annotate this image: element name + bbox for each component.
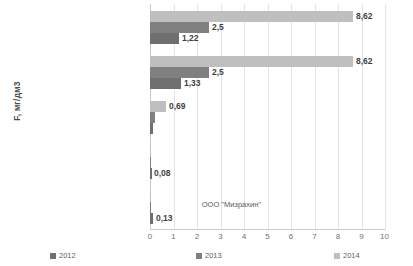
legend-swatch-icon-2013 bbox=[196, 253, 202, 259]
x-tick-6: 6 bbox=[289, 232, 293, 241]
legend-item-2012[interactable]: 2012 bbox=[50, 251, 76, 260]
bar-2014-group-5[interactable] bbox=[150, 191, 151, 202]
bar-2012-group-1[interactable] bbox=[150, 33, 179, 44]
bar-2013-group-5[interactable] bbox=[150, 202, 151, 213]
bar-2014-group-3[interactable] bbox=[150, 101, 166, 112]
bar-2013-group-3[interactable] bbox=[150, 112, 155, 123]
bar-2012-group-4[interactable] bbox=[150, 168, 152, 179]
plot-area: 8,62 2,5 1,22 8,62 2,5 1,33 0,69 bbox=[150, 4, 385, 230]
bar-2013-group-1[interactable] bbox=[150, 22, 209, 33]
bar-label-2014-group-2: 8,62 bbox=[356, 56, 373, 67]
bar-label-2012-group-2: 1,33 bbox=[184, 78, 201, 89]
bar-label-2014-group-3: 0,69 bbox=[169, 101, 186, 112]
legend-swatch-icon-2014 bbox=[334, 253, 340, 259]
bar-2014-group-2[interactable] bbox=[150, 56, 353, 67]
chart-legend: 2012 2013 2014 bbox=[0, 251, 413, 265]
legend-label-2012: 2012 bbox=[59, 251, 76, 260]
bar-label-2013-group-2: 2,5 bbox=[212, 67, 224, 78]
bar-chart: F, мг/дм3 8,62 2,5 1,22 8,62 2, bbox=[0, 0, 413, 266]
legend-item-2014[interactable]: 2014 bbox=[334, 251, 360, 260]
gridline-9 bbox=[362, 4, 363, 230]
y-axis-title: F, мг/дм3 bbox=[12, 46, 22, 156]
x-tick-2: 2 bbox=[195, 232, 199, 241]
gridline-4 bbox=[244, 4, 245, 230]
gridline-8 bbox=[338, 4, 339, 230]
gridline-6 bbox=[291, 4, 292, 230]
legend-label-2013: 2013 bbox=[205, 251, 222, 260]
category-axis-line bbox=[150, 229, 385, 230]
bar-2012-group-5[interactable] bbox=[150, 213, 153, 224]
bar-label-2012-group-1: 1,22 bbox=[182, 33, 199, 44]
bar-2014-group-4[interactable] bbox=[150, 146, 151, 157]
x-tick-8: 8 bbox=[336, 232, 340, 241]
gridline-7 bbox=[315, 4, 316, 230]
x-tick-1: 1 bbox=[171, 232, 175, 241]
bar-2014-group-1[interactable] bbox=[150, 11, 353, 22]
x-axis-ticks: 0 1 2 3 4 5 6 7 8 9 10 bbox=[150, 232, 385, 246]
bar-label-2012-group-5: 0,13 bbox=[156, 213, 173, 224]
x-tick-4: 4 bbox=[242, 232, 246, 241]
bar-label-2013-group-1: 2,5 bbox=[212, 22, 224, 33]
x-tick-0: 0 bbox=[148, 232, 152, 241]
legend-item-2013[interactable]: 2013 bbox=[196, 251, 222, 260]
bar-2013-group-2[interactable] bbox=[150, 67, 209, 78]
x-tick-5: 5 bbox=[265, 232, 269, 241]
bar-2013-group-4[interactable] bbox=[150, 157, 151, 168]
gridline-5 bbox=[268, 4, 269, 230]
gridline-3 bbox=[221, 4, 222, 230]
bar-label-2012-group-4: 0,08 bbox=[154, 168, 171, 179]
gridline-10 bbox=[385, 4, 386, 230]
x-tick-3: 3 bbox=[218, 232, 222, 241]
bar-2012-group-2[interactable] bbox=[150, 78, 181, 89]
bar-label-2014-group-1: 8,62 bbox=[356, 11, 373, 22]
legend-label-2014: 2014 bbox=[343, 251, 360, 260]
legend-swatch-icon-2012 bbox=[50, 253, 56, 259]
bar-2012-group-3[interactable] bbox=[150, 123, 153, 134]
x-tick-7: 7 bbox=[312, 232, 316, 241]
category-label-5: ООО "Мизрахин" bbox=[202, 200, 261, 209]
x-tick-9: 9 bbox=[359, 232, 363, 241]
x-tick-10: 10 bbox=[380, 232, 389, 241]
